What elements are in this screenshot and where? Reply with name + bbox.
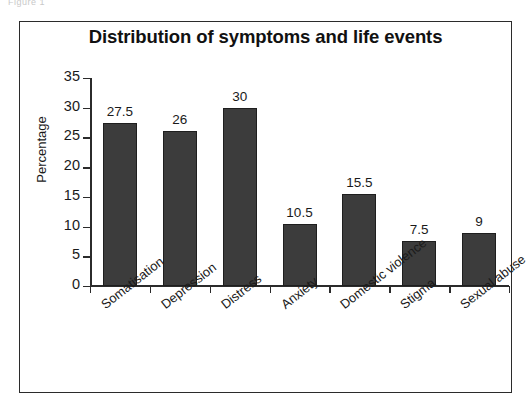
x-tick-mark: [389, 286, 390, 293]
y-tick-label: 10: [64, 217, 80, 233]
bar-value-label: 26: [172, 112, 187, 127]
x-tick-mark: [150, 286, 151, 293]
x-tick-mark: [90, 286, 91, 293]
bar-value-label: 27.5: [107, 104, 133, 119]
y-tick-mark: [83, 286, 90, 287]
bar-value-label: 9: [475, 214, 483, 229]
y-tick-mark: [83, 167, 90, 168]
y-tick-mark: [83, 108, 90, 109]
y-tick-label: 35: [64, 68, 80, 84]
y-tick-label: 20: [64, 157, 80, 173]
x-tick-mark: [329, 286, 330, 293]
y-axis-title: Percentage: [34, 90, 49, 210]
bar[interactable]: [223, 108, 257, 286]
bar-value-label: 15.5: [346, 175, 372, 190]
y-tick-label: 5: [72, 246, 80, 262]
bar-value-label: 10.5: [286, 205, 312, 220]
figure-caption: Figure 1: [8, 0, 45, 7]
x-tick-mark: [509, 286, 510, 293]
y-axis-line: [90, 78, 92, 287]
y-tick-mark: [83, 197, 90, 198]
bar-value-label: 30: [232, 89, 247, 104]
y-tick-label: 30: [64, 98, 80, 114]
y-tick-mark: [83, 137, 90, 138]
y-tick-label: 15: [64, 187, 80, 203]
x-tick-mark: [210, 286, 211, 293]
y-tick-mark: [83, 78, 90, 79]
y-tick-mark: [83, 227, 90, 228]
chart-title: Distribution of symptoms and life events: [20, 26, 511, 48]
chart-frame: Distribution of symptoms and life events…: [19, 21, 512, 393]
x-tick-mark: [270, 286, 271, 293]
y-tick-label: 0: [72, 276, 80, 292]
y-tick-label: 25: [64, 127, 80, 143]
bar[interactable]: [103, 123, 137, 286]
bar[interactable]: [163, 131, 197, 286]
x-tick-mark: [449, 286, 450, 293]
plot-area: 05101520253035 27.5263010.515.57.59 Soma…: [90, 78, 509, 286]
y-tick-mark: [83, 256, 90, 257]
